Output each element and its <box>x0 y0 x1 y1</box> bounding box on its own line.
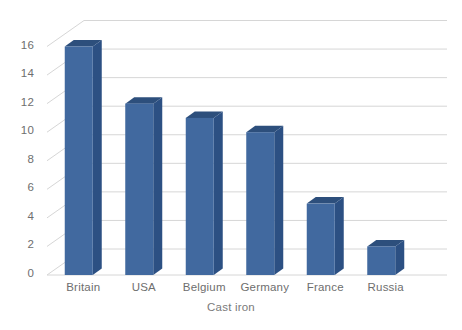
x-axis-title: Cast iron <box>0 301 462 313</box>
bar-front-face <box>186 118 214 275</box>
bar-russia <box>367 240 404 275</box>
bar-side-face <box>214 111 223 275</box>
y-tick-label: 8 <box>8 153 34 165</box>
bar-side-face <box>335 197 344 275</box>
bar-usa <box>125 97 162 275</box>
bar-front-face <box>125 104 153 275</box>
bar-front-face <box>65 47 93 276</box>
bar-belgium <box>186 111 223 275</box>
bar-side-face <box>274 126 283 275</box>
y-tick-label: 2 <box>8 238 34 250</box>
bar-front-face <box>367 246 395 275</box>
bar-side-face <box>93 40 102 275</box>
y-tick-label: 4 <box>8 210 34 222</box>
x-category-label: Russia <box>346 281 426 293</box>
bar-series <box>65 40 405 275</box>
bar-front-face <box>246 132 274 275</box>
bar-britain <box>65 40 102 275</box>
bar-front-face <box>307 204 335 275</box>
bar-france <box>307 197 344 275</box>
y-tick-label: 12 <box>8 96 34 108</box>
y-tick-label: 14 <box>8 67 34 79</box>
bar-chart: 0246810121416 BritainUSABelgiumGermanyFr… <box>0 0 462 330</box>
y-tick-label: 0 <box>8 267 34 279</box>
y-tick-label: 6 <box>8 181 34 193</box>
bar-side-face <box>153 97 162 275</box>
y-tick-label: 10 <box>8 124 34 136</box>
bar-germany <box>246 126 283 275</box>
y-tick-label: 16 <box>8 39 34 51</box>
